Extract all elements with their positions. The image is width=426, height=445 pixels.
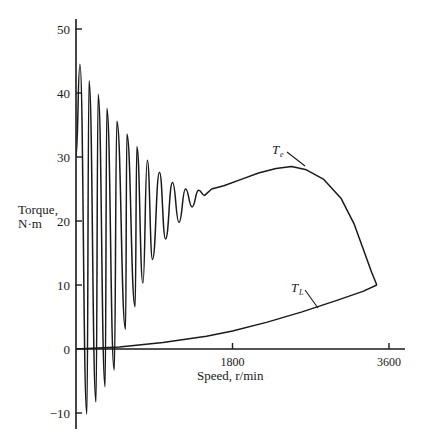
tl-curve — [76, 285, 377, 349]
te-curve-label: T e — [272, 142, 305, 166]
y-tick-label: −10 — [50, 406, 70, 421]
torque-speed-chart: 50403020100−10 18003600 Torque, N·m Spee… — [0, 0, 426, 445]
y-tick-label: 30 — [57, 150, 70, 165]
tl-curve-label: T L — [291, 280, 318, 308]
y-tick-label: 0 — [64, 342, 71, 357]
te-leader-line — [287, 152, 305, 166]
x-tick-label: 3600 — [377, 355, 401, 369]
tl-leader-line — [305, 290, 318, 308]
y-tick-label: 40 — [57, 86, 70, 101]
y-tick-label: 50 — [57, 22, 70, 37]
x-tick-label: 1800 — [221, 355, 245, 369]
te-label-main: T — [272, 142, 280, 157]
x-axis-label: Speed, r/min — [197, 368, 264, 383]
tl-label-sub: L — [298, 288, 304, 297]
y-tick-label: 20 — [57, 214, 70, 229]
y-tick-label: 10 — [57, 278, 70, 293]
y-axis: 50403020100−10 — [50, 19, 82, 429]
y-axis-label-line2: N·m — [18, 216, 42, 231]
te-label-sub: e — [280, 150, 284, 159]
chart-svg: 50403020100−10 18003600 Torque, N·m Spee… — [0, 0, 426, 445]
y-axis-label-line1: Torque, — [18, 202, 58, 217]
tl-label-main: T — [291, 280, 299, 295]
